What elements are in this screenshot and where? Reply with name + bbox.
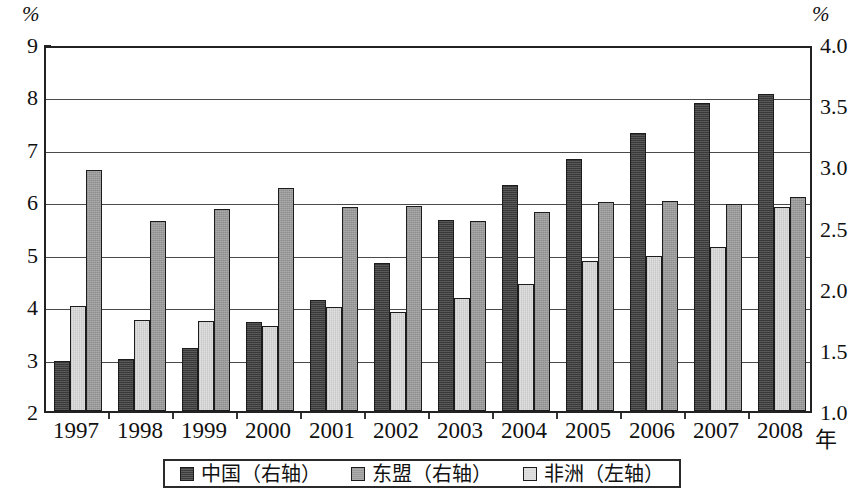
bar-africa	[70, 306, 86, 411]
left-tick-label: 9	[4, 35, 38, 57]
left-tick-label: 7	[4, 140, 38, 162]
x-axis-label: 2002	[364, 419, 428, 442]
left-tick-label: 5	[4, 245, 38, 267]
bar-china	[566, 159, 582, 411]
x-axis-label: 2004	[492, 419, 556, 442]
bar-asean	[726, 204, 742, 411]
left-tick-label: 8	[4, 87, 38, 109]
bar-asean	[278, 188, 294, 411]
right-tick-label: 4.0	[820, 35, 852, 57]
bar-china	[54, 361, 70, 411]
bar-group	[174, 48, 238, 411]
bar-group	[110, 48, 174, 411]
legend-swatch-icon	[180, 467, 194, 481]
right-tick-label: 3.5	[820, 96, 852, 118]
x-axis-label: 1998	[108, 419, 172, 442]
bar-asean	[406, 206, 422, 411]
bar-group	[750, 48, 814, 411]
bar-asean	[214, 209, 230, 411]
plot-area	[44, 46, 812, 413]
left-tick-label: 6	[4, 192, 38, 214]
bar-china	[694, 103, 710, 411]
left-axis-unit: %	[22, 4, 40, 25]
bar-china	[438, 220, 454, 411]
bar-group	[686, 48, 750, 411]
bar-asean	[150, 221, 166, 411]
bar-china	[182, 348, 198, 411]
bar-africa	[646, 256, 662, 411]
bar-africa	[518, 284, 534, 411]
x-axis-label: 2008	[748, 419, 812, 442]
left-tick-label: 3	[4, 350, 38, 372]
right-tick-label: 2.5	[820, 219, 852, 241]
legend-swatch-icon	[523, 467, 537, 481]
x-axis-label: 2000	[236, 419, 300, 442]
bar-africa	[262, 326, 278, 411]
bar-africa	[326, 307, 342, 411]
legend-item[interactable]: 非洲（左轴）	[523, 464, 664, 484]
legend-swatch-icon	[351, 467, 365, 481]
x-axis-label: 2005	[556, 419, 620, 442]
chart-legend: 中国（右轴）东盟（右轴）非洲（左轴）	[163, 459, 681, 488]
legend-item[interactable]: 中国（右轴）	[180, 464, 321, 484]
bar-asean	[86, 170, 102, 411]
bar-africa	[582, 261, 598, 411]
bar-china	[502, 185, 518, 411]
bar-asean	[534, 212, 550, 411]
x-axis-label: 2001	[300, 419, 364, 442]
bar-africa	[774, 207, 790, 411]
bar-china	[758, 94, 774, 411]
right-tick-label: 1.5	[820, 341, 852, 363]
bar-africa	[390, 312, 406, 411]
bar-china	[374, 263, 390, 411]
bar-group	[46, 48, 110, 411]
legend-label: 非洲（左轴）	[544, 464, 664, 484]
right-tick-label: 3.0	[820, 157, 852, 179]
bar-africa	[198, 321, 214, 411]
x-axis-unit-label: 年	[815, 421, 837, 453]
bar-asean	[790, 197, 806, 411]
bar-africa	[134, 320, 150, 411]
x-axis-label: 2006	[620, 419, 684, 442]
bar-asean	[342, 207, 358, 411]
x-axis-label: 2003	[428, 419, 492, 442]
x-axis-label: 2007	[684, 419, 748, 442]
right-axis-unit: %	[812, 4, 830, 25]
bar-asean	[470, 221, 486, 411]
bar-china	[630, 133, 646, 411]
bar-china	[310, 300, 326, 411]
bar-group	[494, 48, 558, 411]
x-axis-label: 1999	[172, 419, 236, 442]
x-axis-label: 1997	[44, 419, 108, 442]
bar-group	[238, 48, 302, 411]
right-tick-label: 2.0	[820, 280, 852, 302]
bar-group	[558, 48, 622, 411]
legend-label: 东盟（右轴）	[372, 464, 492, 484]
bar-africa	[454, 298, 470, 411]
left-tick-label: 4	[4, 297, 38, 319]
bar-china	[246, 322, 262, 411]
bar-group	[622, 48, 686, 411]
bar-africa	[710, 247, 726, 411]
bar-group	[366, 48, 430, 411]
legend-item[interactable]: 东盟（右轴）	[351, 464, 492, 484]
bar-china	[118, 359, 134, 411]
bar-group	[430, 48, 494, 411]
legend-label: 中国（右轴）	[201, 464, 321, 484]
bar-asean	[662, 201, 678, 411]
left-tick-label: 2	[4, 402, 38, 424]
bar-asean	[598, 202, 614, 411]
bar-group	[302, 48, 366, 411]
